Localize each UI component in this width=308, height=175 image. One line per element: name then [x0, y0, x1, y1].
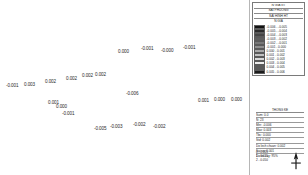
map-value-label: -0.002 [133, 123, 145, 128]
map-value-label: -0.003 [110, 125, 122, 130]
map-frame-divider [249, 0, 250, 175]
map-legend[interactable]: N GIA GT SAI PHUONG SAI HINH HT N GIA -0… [252, 2, 305, 76]
map-value-label: 0.001 [198, 99, 209, 104]
map-value-label: -0.001 [141, 47, 153, 52]
map-value-label: -0.001 [62, 112, 74, 117]
map-value-label: 0.000 [118, 50, 129, 55]
map-value-label: -0.000 [161, 49, 173, 54]
map-value-label: 0.002 [66, 77, 77, 82]
map-canvas[interactable]: -0.0010.0030.0020.0020.0020.0020.000-0.0… [0, 0, 248, 175]
legend-color-swatch [254, 70, 265, 74]
map-value-label: -0.006 [126, 92, 138, 97]
legend-class-ramp: -0.006 - -0.005-0.005 - -0.004-0.004 - -… [254, 25, 303, 74]
map-value-label: 0.002 [82, 74, 93, 79]
map-value-label: 0.002 [95, 73, 106, 78]
map-value-label: 0.002 [45, 80, 56, 85]
legend-header: N GIA [254, 19, 303, 24]
map-value-label: 0.000 [56, 105, 67, 110]
legend-class-row[interactable]: 0.005 - 0.006 [254, 70, 303, 74]
legend-class-label: 0.005 - 0.006 [265, 70, 303, 74]
map-value-label: -0.001 [183, 46, 195, 51]
map-value-label: 0.000 [214, 98, 225, 103]
scale-bar: 0 - 0.0051 - 0.0252 - 0.050 [256, 150, 282, 163]
map-value-label: -0.002 [153, 125, 165, 130]
map-value-label: 0.003 [24, 83, 35, 88]
map-value-label: 0.000 [231, 98, 242, 103]
scale-bar-tick: 2 - 0.050 [256, 158, 282, 162]
map-value-label: -0.005 [94, 127, 106, 132]
north-arrow-icon [288, 150, 304, 172]
map-value-label: -0.001 [6, 84, 18, 89]
